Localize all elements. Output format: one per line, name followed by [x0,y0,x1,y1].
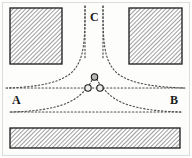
bottom-plate [10,128,180,148]
top-right-electrode [129,8,182,64]
label-B: B [170,94,178,106]
saddle-markers [85,74,103,91]
curve-lower-left [11,74,94,112]
curve-lower-right [95,74,181,112]
saddle-point-left [85,85,91,91]
saddle-point-upper [91,74,97,80]
label-C: C [90,11,99,23]
saddle-point-right [97,85,103,91]
field-line-figure: A B C [0,0,192,158]
top-left-electrode [10,8,62,64]
label-A: A [12,94,21,106]
asymptote-lines [6,88,186,112]
